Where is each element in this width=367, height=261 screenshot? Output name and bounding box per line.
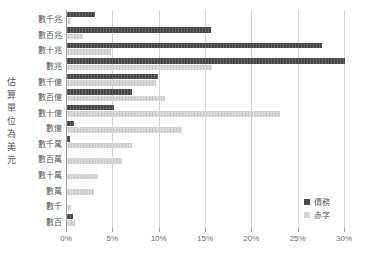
bar-debt [67,121,74,127]
x-axis-tick [205,228,206,232]
bar-debt [67,89,132,95]
bar-deficit [67,111,280,117]
category-label: 數十萬 [0,169,62,180]
legend-label-deficit: 赤字 [314,209,330,220]
x-axis-tick [159,228,160,232]
x-axis-tick [298,228,299,232]
x-axis-label: 30% [336,234,352,243]
bar-debt [67,214,73,220]
bar-debt [67,12,95,18]
x-axis-tick [344,228,345,232]
bar-deficit [67,127,182,133]
category-label: 數千兆 [0,13,62,24]
x-axis-label: 25% [290,234,306,243]
x-axis-label: 15% [197,234,213,243]
bar-deficit [67,18,71,24]
x-axis-tick [66,228,67,232]
bar-debt [67,105,114,111]
bar-deficit [67,205,71,211]
x-axis-label: 20% [243,234,259,243]
x-axis-tick [251,228,252,232]
bar-deficit [67,96,165,102]
x-axis-label: 0% [60,234,72,243]
bar-chart: 估算單位為美元 債務 赤字 0%5%10%15%20%25%30%數千兆數百兆數… [0,0,367,261]
category-label: 數兆 [0,60,62,71]
legend: 債務 赤字 [304,196,330,220]
legend-item-debt: 債務 [304,196,330,207]
bar-deficit [67,189,94,195]
x-axis-label: 5% [107,234,119,243]
bar-deficit [67,80,156,86]
bar-debt [67,136,70,142]
legend-item-deficit: 赤字 [304,209,330,220]
bar-deficit [67,220,75,226]
bar-deficit [67,174,98,180]
category-label: 數百萬 [0,153,62,164]
category-label: 數千萬 [0,138,62,149]
bar-debt [67,27,211,33]
x-axis-label: 10% [151,234,167,243]
legend-label-debt: 債務 [314,196,330,207]
category-label: 數十億 [0,107,62,118]
category-label: 數千 [0,200,62,211]
debt-swatch [304,199,310,205]
category-label: 數百 [0,216,62,227]
gridline [344,10,345,228]
bar-deficit [67,49,111,55]
bar-debt [67,43,322,49]
x-axis-tick [112,228,113,232]
category-label: 數億 [0,122,62,133]
category-label: 數萬 [0,185,62,196]
category-label: 數十兆 [0,44,62,55]
bar-deficit [67,65,212,71]
bar-debt [67,74,158,80]
bar-debt [67,58,345,64]
bar-deficit [67,158,122,164]
deficit-swatch [304,212,310,218]
bar-deficit [67,34,83,40]
category-label: 數百億 [0,91,62,102]
bar-deficit [67,143,132,149]
category-label: 數百兆 [0,29,62,40]
category-label: 數千億 [0,76,62,87]
